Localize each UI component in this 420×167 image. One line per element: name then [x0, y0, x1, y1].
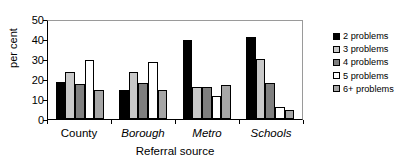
x-axis-tick-mark [175, 120, 176, 124]
legend-swatch-icon [333, 72, 340, 79]
bar [183, 40, 193, 119]
legend-item: 6+ problems [333, 84, 394, 94]
y-axis-tick-label: 40 [0, 35, 44, 46]
legend-swatch-icon [333, 46, 340, 53]
bar [285, 110, 295, 119]
bar-groups [48, 21, 302, 119]
bar [56, 82, 66, 119]
x-axis-tick-mark [303, 120, 304, 124]
y-axis-tick-label: 30 [0, 55, 44, 66]
bar [256, 59, 266, 119]
legend-item-label: 4 problems [343, 57, 388, 67]
legend-swatch-icon [333, 59, 340, 66]
bar [119, 90, 129, 119]
legend: 2 problems3 problems4 problems5 problems… [333, 31, 394, 94]
bar [94, 90, 104, 119]
x-axis-tick-mark [239, 120, 240, 124]
y-axis-tick-label: 50 [0, 15, 44, 26]
bar-group [239, 21, 303, 119]
plot-area [47, 20, 303, 120]
x-axis-title: Referral source [47, 145, 303, 158]
legend-item: 5 problems [333, 71, 394, 81]
bar [275, 107, 285, 119]
y-axis-tick-label: 0 [0, 115, 44, 126]
legend-item-label: 2 problems [343, 31, 388, 41]
legend-item-label: 6+ problems [343, 84, 394, 94]
bar [65, 72, 75, 119]
bar [212, 96, 222, 119]
legend-item-label: 3 problems [343, 44, 388, 54]
bar [158, 90, 168, 119]
bar-group [48, 21, 112, 119]
bar [129, 72, 139, 119]
y-axis-tick-label: 10 [0, 95, 44, 106]
bar-group-inner [56, 21, 104, 119]
x-axis-label: Schools [251, 127, 292, 140]
legend-swatch-icon [333, 33, 340, 40]
bar-chart: per cent 01020304050 CountyBoroughMetroS… [0, 0, 420, 167]
bar [85, 60, 95, 119]
x-axis-tick-mark [47, 120, 48, 124]
legend-item: 2 problems [333, 31, 394, 41]
legend-item: 3 problems [333, 44, 394, 54]
legend-swatch-icon [333, 85, 340, 92]
x-axis-tick-mark [111, 120, 112, 124]
bar [148, 62, 158, 119]
bar [246, 37, 256, 119]
bar [221, 85, 231, 119]
bar [75, 84, 85, 119]
bar [192, 87, 202, 119]
bar [202, 87, 212, 119]
bar-group [112, 21, 176, 119]
bar [265, 83, 275, 119]
x-axis-label: Borough [121, 127, 164, 140]
bar-group-inner [183, 21, 231, 119]
x-axis-label: Metro [192, 127, 221, 140]
y-axis-tick-label: 20 [0, 75, 44, 86]
bar [138, 83, 148, 119]
x-axis-label: County [61, 127, 97, 140]
bar-group [175, 21, 239, 119]
bar-group-inner [119, 21, 167, 119]
bar-group-inner [246, 21, 294, 119]
legend-item-label: 5 problems [343, 71, 388, 81]
legend-item: 4 problems [333, 57, 394, 67]
